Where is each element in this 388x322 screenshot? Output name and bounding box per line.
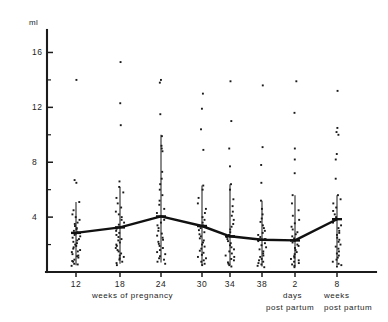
x-tick-label: 38: [257, 279, 267, 289]
y-tick-label: 4: [32, 212, 37, 222]
x-tick-label: 2: [292, 279, 297, 289]
x-tick-label: 12: [71, 279, 81, 289]
scatter-plot-figure: ml 481216 12182430343828 weeks of pregna…: [0, 0, 388, 322]
x-tick-label: 34: [225, 279, 235, 289]
y-tick-label: 16: [32, 47, 42, 57]
x-tick-label: 18: [115, 279, 125, 289]
x-axis-group-label-days-line1: days: [283, 291, 302, 300]
y-tick-label: 8: [32, 157, 37, 167]
y-axis-unit-label: ml: [29, 18, 38, 27]
labels-layer: ml 481216 12182430343828 weeks of pregna…: [0, 0, 388, 322]
y-axis-tick-labels: 481216: [32, 47, 42, 222]
x-axis-group-label-pregnancy: weeks of pregnancy: [91, 291, 173, 300]
x-axis-group-label-days-line2: post partum: [266, 303, 314, 312]
x-axis-group-label-weeks-line2: post partum: [324, 303, 372, 312]
y-tick-label: 12: [32, 102, 42, 112]
x-tick-label: 8: [334, 279, 339, 289]
x-axis-tick-labels: 12182430343828: [71, 279, 340, 289]
x-tick-label: 24: [156, 279, 166, 289]
x-tick-label: 30: [197, 279, 207, 289]
x-axis-group-label-weeks-line1: weeks: [323, 291, 349, 300]
